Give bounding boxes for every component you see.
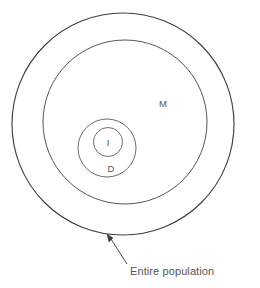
m-circle (43, 40, 207, 204)
callout-leader-line (111, 239, 127, 264)
d-label: D (108, 163, 115, 174)
venn-diagram-root: M D I Entire population (0, 0, 260, 288)
i-label: I (107, 137, 110, 148)
m-label: M (159, 98, 167, 109)
callout-label: Entire population (130, 265, 214, 277)
venn-diagram-canvas: M D I Entire population (0, 0, 260, 288)
